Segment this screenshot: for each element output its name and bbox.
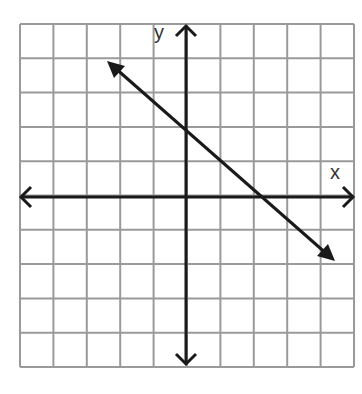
coordinate-plane bbox=[0, 0, 362, 394]
y-axis-label: y bbox=[154, 22, 164, 42]
x-axis-label: x bbox=[330, 162, 340, 182]
